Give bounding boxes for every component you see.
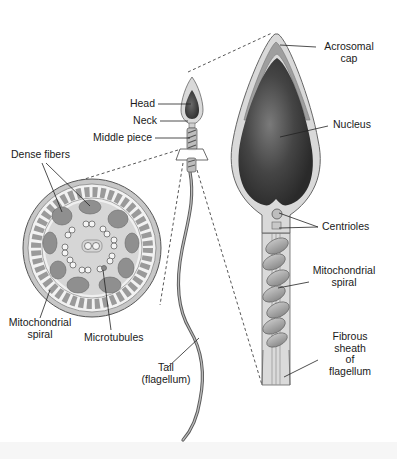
label-fibrous-line3: of (322, 354, 378, 366)
label-fibrous-line4: flagellum (322, 366, 378, 378)
label-acrosomal-line1: Acrosomal (318, 41, 380, 53)
label-microtubules: Microtubules (84, 332, 144, 344)
label-cross-mito-line2: spiral (6, 329, 74, 341)
cross-section-illustration (23, 179, 161, 317)
label-mito-line1: Mitochondrial (306, 265, 382, 277)
label-centrioles: Centrioles (322, 221, 369, 233)
label-middle-piece: Middle piece (80, 132, 152, 144)
label-fibrous-sheath: Fibrous sheath of flagellum (322, 331, 378, 377)
label-tail-line1: Tail (136, 362, 196, 374)
bottom-margin (0, 442, 397, 459)
label-neck: Neck (112, 115, 157, 127)
label-acrosomal-line2: cap (318, 53, 380, 65)
label-dense-fibers: Dense fibers (11, 149, 70, 161)
label-head: Head (112, 98, 155, 110)
label-mito-line2: spiral (306, 277, 382, 289)
enlarged-sperm-illustration (231, 34, 320, 385)
label-cross-mito-spiral: Mitochondrial spiral (6, 317, 74, 340)
whole-sperm-illustration (176, 77, 208, 440)
label-fibrous-line1: Fibrous (322, 331, 378, 343)
label-acrosomal-cap: Acrosomal cap (318, 41, 380, 64)
label-tail-line2: (flagellum) (136, 374, 196, 386)
label-nucleus: Nucleus (333, 119, 371, 131)
label-tail: Tail (flagellum) (136, 362, 196, 385)
label-mito-spiral: Mitochondrial spiral (306, 265, 382, 288)
label-cross-mito-line1: Mitochondrial (6, 317, 74, 329)
